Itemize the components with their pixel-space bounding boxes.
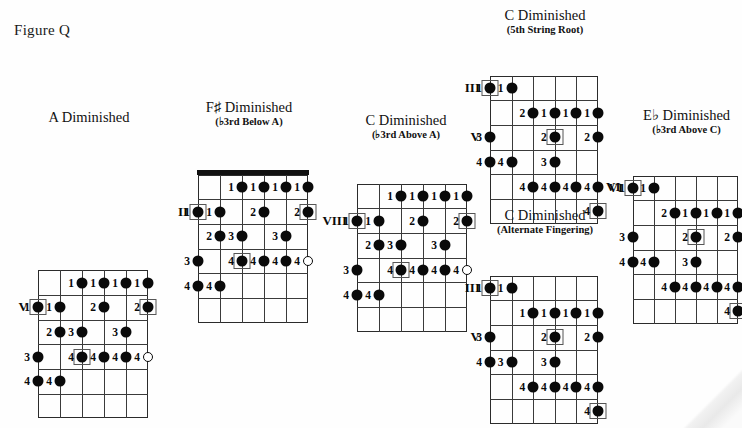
note-dot xyxy=(418,265,429,276)
note-dot xyxy=(55,326,66,337)
fretboard: 111111222333444444II xyxy=(170,128,328,333)
note-dot xyxy=(628,257,639,268)
finger-number: 4 xyxy=(563,381,569,393)
open-note-dot xyxy=(462,265,472,275)
diagram-subtitle: (5th String Root) xyxy=(472,24,618,36)
note-dot xyxy=(440,240,451,251)
fret-line xyxy=(490,350,598,351)
finger-number: 4 xyxy=(661,281,667,293)
note-dot xyxy=(121,277,132,288)
note-dot xyxy=(99,277,110,288)
position-marker-left: V xyxy=(471,329,480,345)
fret-line xyxy=(633,225,738,226)
fret-line xyxy=(490,150,598,151)
string-line xyxy=(82,270,83,418)
finger-number: 4 xyxy=(134,351,140,363)
note-dot xyxy=(549,157,560,168)
fret-line xyxy=(633,299,738,300)
finger-number: 3 xyxy=(272,230,278,242)
note-dot xyxy=(628,183,639,194)
string-line xyxy=(533,76,534,224)
finger-number: 2 xyxy=(661,207,667,219)
string-line xyxy=(555,76,556,224)
open-note-dot xyxy=(143,352,153,362)
fretboard: 111111222333444444VIII xyxy=(325,141,487,342)
finger-number: 4 xyxy=(365,289,371,301)
finger-number: 2 xyxy=(206,230,212,242)
note-dot xyxy=(628,232,639,243)
finger-number: 1 xyxy=(46,301,52,313)
diagram-c-diminished-above-a: C Diminished(♭3rd Above A)11111122233344… xyxy=(325,113,487,342)
fret-line xyxy=(38,369,148,370)
finger-number: 4 xyxy=(519,181,525,193)
finger-number: 1 xyxy=(294,181,300,193)
note-dot xyxy=(593,181,604,192)
finger-number: 2 xyxy=(584,131,590,143)
note-dot xyxy=(281,231,292,242)
note-dot xyxy=(649,183,660,194)
note-dot xyxy=(670,207,681,218)
string-line xyxy=(576,76,577,224)
finger-number: 4 xyxy=(703,281,709,293)
diagram-eflat-diminished: E♭ Diminished(♭3rd Above C)1121113224434… xyxy=(615,108,742,334)
note-dot xyxy=(593,132,604,143)
note-dot xyxy=(352,215,363,226)
note-dot xyxy=(237,231,248,242)
finger-number: 4 xyxy=(541,381,547,393)
note-dot xyxy=(485,357,496,368)
string-line xyxy=(512,76,513,224)
note-dot xyxy=(506,357,517,368)
string-line xyxy=(675,176,676,324)
note-dot xyxy=(77,277,88,288)
note-dot xyxy=(691,281,702,292)
finger-number: 1 xyxy=(584,307,590,319)
fret-line xyxy=(38,394,148,395)
finger-number: 4 xyxy=(343,289,349,301)
note-dot xyxy=(670,281,681,292)
note-dot xyxy=(33,376,44,387)
fret-line xyxy=(357,233,467,234)
diagram-title: C Diminished xyxy=(472,8,618,23)
note-dot xyxy=(485,132,496,143)
note-dot xyxy=(55,376,66,387)
note-dot xyxy=(374,289,385,300)
finger-number: 2 xyxy=(541,331,547,343)
fret-line xyxy=(357,258,467,259)
fret-line xyxy=(490,399,598,400)
position-marker-left: III xyxy=(465,80,480,96)
note-dot xyxy=(571,307,582,318)
string-line xyxy=(576,276,577,424)
finger-number: 4 xyxy=(184,280,190,292)
note-dot xyxy=(121,351,132,362)
page-curl-decoration xyxy=(672,366,742,428)
finger-number: 4 xyxy=(476,356,482,368)
diagram-subtitle: (♭3rd Above A) xyxy=(325,129,487,141)
diagram-subtitle: (♭3rd Below A) xyxy=(170,116,328,128)
fret-line xyxy=(490,374,598,375)
position-marker-left: III xyxy=(465,280,480,296)
finger-number: 1 xyxy=(453,190,459,202)
finger-number: 2 xyxy=(134,301,140,313)
finger-number: 3 xyxy=(541,356,547,368)
fret-line xyxy=(38,344,148,345)
diagram-subtitle: (♭3rd Above C) xyxy=(615,124,742,136)
note-dot xyxy=(485,157,496,168)
fret-line xyxy=(490,174,598,175)
position-marker-left: VIII xyxy=(322,213,347,229)
open-note-dot xyxy=(303,256,313,266)
note-dot xyxy=(712,207,723,218)
string-line xyxy=(401,184,402,332)
finger-number: 2 xyxy=(584,331,590,343)
finger-number: 3 xyxy=(112,326,118,338)
diagram-fsharp-diminished: F♯ Diminished(♭3rd Below A)1111112223334… xyxy=(170,100,328,333)
fret-line xyxy=(633,274,738,275)
finger-number: 1 xyxy=(563,107,569,119)
finger-number: 1 xyxy=(541,107,547,119)
note-dot xyxy=(396,265,407,276)
note-dot xyxy=(418,215,429,226)
finger-number: 4 xyxy=(724,281,730,293)
finger-number: 4 xyxy=(228,255,234,267)
finger-number: 4 xyxy=(682,281,688,293)
note-dot xyxy=(506,157,517,168)
note-dot xyxy=(396,240,407,251)
